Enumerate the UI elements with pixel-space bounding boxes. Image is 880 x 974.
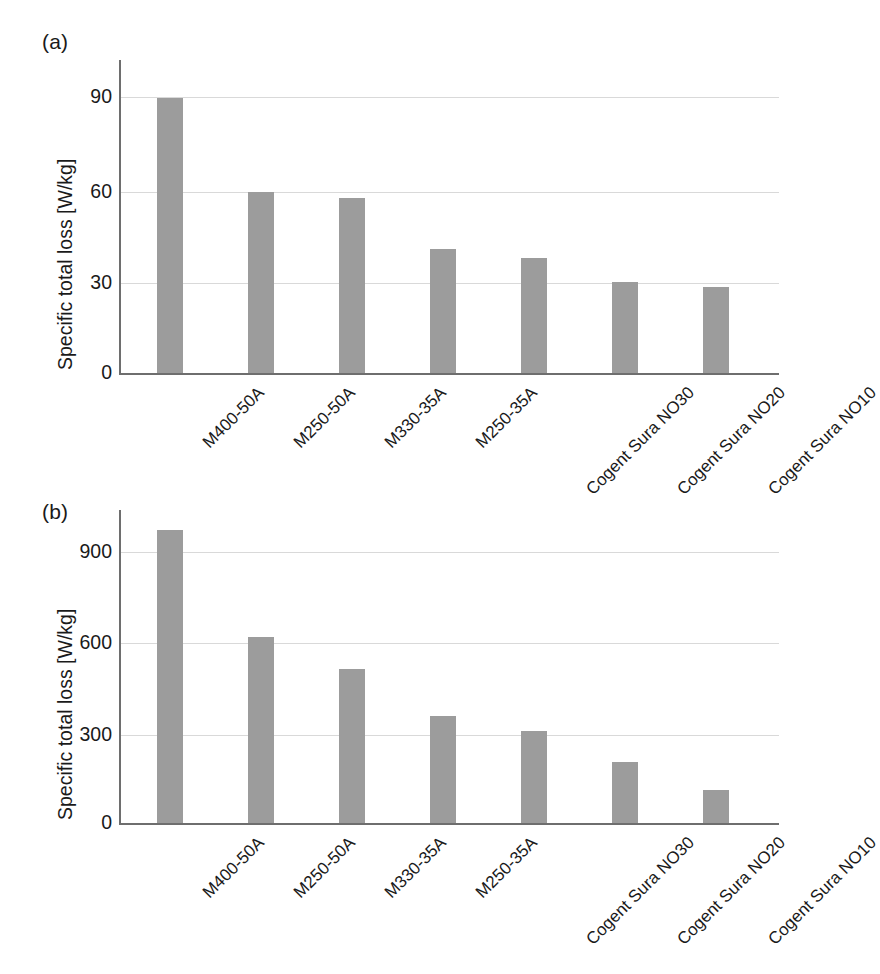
panel-label-b: (b) xyxy=(42,500,68,524)
x-tick-label-b-3: M250-35A xyxy=(472,833,542,903)
bar-a-4 xyxy=(521,258,547,373)
bar-a-2 xyxy=(339,198,365,373)
x-tick-label-a-3: M250-35A xyxy=(472,383,542,453)
y-tick-label-a-30: 30 xyxy=(90,273,112,293)
gridline-a-0: 0 xyxy=(121,373,779,374)
panel-label-a: (a) xyxy=(42,30,68,54)
y-tick-label-a-0: 0 xyxy=(101,363,112,383)
x-tick-label-a-2: M330-35A xyxy=(381,383,451,453)
x-tick-label-a-1: M250-50A xyxy=(290,383,360,453)
x-tick-label-b-0: M400-50A xyxy=(199,833,269,903)
bar-b-0 xyxy=(157,530,183,823)
bar-b-3 xyxy=(430,716,456,823)
bar-a-6 xyxy=(703,287,729,373)
bar-a-1 xyxy=(248,192,274,373)
gridline-a-60: 60 xyxy=(121,192,779,193)
y-axis-line-a xyxy=(119,60,121,375)
x-tick-label-a-0: M400-50A xyxy=(199,383,269,453)
bar-a-5 xyxy=(612,282,638,373)
chart-panel-b: (b) Specific total loss [W/kg] 0 300 600… xyxy=(0,452,816,974)
y-axis-title-b: Specific total loss [W/kg] xyxy=(54,609,77,820)
y-axis-line-b xyxy=(119,510,121,824)
y-tick-label-b-900: 900 xyxy=(79,542,112,562)
y-tick-label-b-300: 300 xyxy=(79,725,112,745)
bar-a-3 xyxy=(430,249,456,373)
x-tick-label-b-2: M330-35A xyxy=(381,833,451,903)
x-tick-label-b-1: M250-50A xyxy=(290,833,360,903)
bar-b-5 xyxy=(612,762,638,823)
gridline-b-600: 600 xyxy=(121,643,779,644)
bar-b-6 xyxy=(703,790,729,823)
y-tick-label-a-60: 60 xyxy=(90,182,112,202)
gridline-a-90: 90 xyxy=(121,97,779,98)
gridline-b-900: 900 xyxy=(121,552,779,553)
y-tick-label-a-90: 90 xyxy=(90,87,112,107)
y-tick-label-b-0: 0 xyxy=(101,813,112,833)
chart-panel-a: (a) Specific total loss [W/kg] 0 30 60 9… xyxy=(0,0,816,500)
bar-b-4 xyxy=(521,731,547,823)
gridline-b-0: 0 xyxy=(121,823,779,824)
bar-a-0 xyxy=(157,98,183,373)
bar-b-2 xyxy=(339,669,365,823)
y-axis-title-a: Specific total loss [W/kg] xyxy=(54,159,77,370)
y-tick-label-b-600: 600 xyxy=(79,633,112,653)
bar-b-1 xyxy=(248,637,274,823)
